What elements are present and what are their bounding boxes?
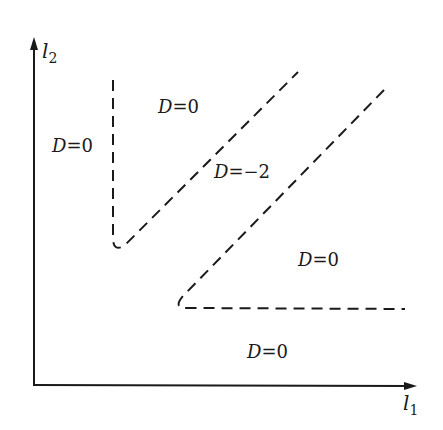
boundary-upper bbox=[113, 72, 298, 248]
region-label-upper: D=0 bbox=[157, 96, 199, 117]
axes bbox=[30, 37, 417, 390]
x-axis-arrow-icon bbox=[404, 382, 417, 390]
region-label-right: D=0 bbox=[297, 249, 339, 270]
boundary-lower bbox=[179, 90, 405, 309]
region-label-middle: D=−2 bbox=[213, 161, 270, 182]
y-axis-label: l2 bbox=[42, 39, 57, 66]
region-label-left: D=0 bbox=[51, 135, 93, 156]
x-axis bbox=[33, 385, 408, 386]
x-axis-label: l1 bbox=[403, 391, 418, 418]
region-label-bottom: D=0 bbox=[246, 341, 288, 362]
y-axis-arrow-icon bbox=[30, 37, 38, 50]
diagram-canvas: l2 l1 D=0 D=0 D=−2 D=0 D=0 bbox=[0, 0, 443, 430]
